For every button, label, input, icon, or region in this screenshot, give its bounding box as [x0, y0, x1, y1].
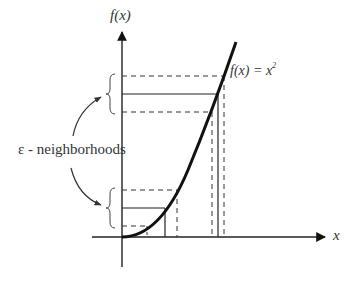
- lower-brace-icon: [106, 188, 115, 228]
- upper-brace-icon: [106, 74, 115, 114]
- function-exponent: 2: [272, 61, 276, 70]
- arrow-to-upper-brace-icon: [73, 97, 101, 136]
- y-axis-label: f(x): [110, 8, 131, 23]
- function-label: f(x) = x2: [230, 62, 276, 78]
- epsilon-neighborhoods-label: ε - neighborhoods: [18, 142, 126, 157]
- x-axis-label: x: [333, 228, 340, 243]
- function-label-text: f(x) = x: [230, 63, 272, 78]
- arrow-to-lower-brace-icon: [71, 168, 101, 205]
